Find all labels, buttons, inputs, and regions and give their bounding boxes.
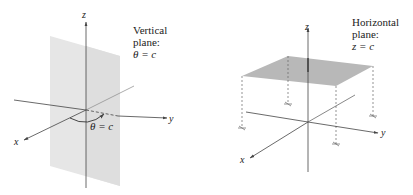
angle-label: θ = c [90, 120, 113, 132]
horizontal-plane-caption: Horizontal plane: z = c [352, 16, 399, 52]
right-y-label: y [381, 127, 385, 139]
caption-line: Horizontal [352, 16, 399, 28]
left-y-label: y [169, 113, 173, 125]
right-z-label: z [305, 21, 309, 33]
right-back-axis [246, 112, 308, 122]
caption-equation: z = c [352, 40, 399, 52]
right-y-axis [308, 122, 378, 133]
vertical-plane-caption: Vertical plane: θ = c [133, 24, 167, 60]
y-axis [118, 116, 167, 118]
caption-line: Vertical [133, 24, 167, 36]
caption-equation: θ = c [133, 48, 167, 60]
foot-marks [238, 102, 377, 146]
left-z-label: z [82, 9, 86, 21]
caption-line: plane: [352, 28, 399, 40]
right-x-axis [250, 122, 308, 158]
caption-line: plane: [133, 36, 167, 48]
left-x-label: x [14, 136, 18, 148]
right-x-label: x [240, 154, 244, 166]
